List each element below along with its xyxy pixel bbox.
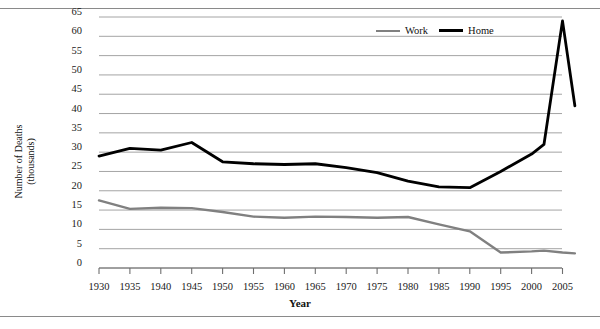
y-axis-tick-label: 25	[62, 161, 82, 171]
y-axis-tick-label: 40	[62, 104, 82, 114]
chart-page: 05101520253035404550556065 1930193519401…	[0, 0, 600, 329]
x-axis-tick-label: 2005	[543, 281, 583, 292]
y-axis-title: Number of Deaths (thousands)	[13, 102, 36, 222]
y-axis-tick-label: 45	[62, 84, 82, 94]
legend-item-home: Home	[439, 25, 494, 36]
legend-label-home: Home	[468, 25, 494, 36]
y-axis-tick-label: 0	[62, 258, 82, 268]
legend-swatch-home-icon	[439, 29, 463, 32]
line-chart-plot	[0, 0, 600, 329]
y-axis-tick-label: 35	[62, 123, 82, 133]
legend-item-work: Work	[376, 25, 428, 36]
y-axis-title-line-1: Number of Deaths	[13, 102, 25, 222]
chart-legend: Work Home	[376, 25, 494, 36]
y-axis-tick-label: 30	[62, 142, 82, 152]
y-axis-tick-label: 60	[62, 26, 82, 36]
y-axis-tick-label: 55	[62, 46, 82, 56]
y-axis-tick-label: 15	[62, 200, 82, 210]
x-axis-ticks	[99, 268, 563, 274]
y-axis-tick-label: 50	[62, 65, 82, 75]
y-axis-tick-label: 10	[62, 219, 82, 229]
series-line-home	[99, 21, 575, 188]
series-line-work	[99, 200, 575, 253]
y-axis-title-line-2: (thousands)	[24, 102, 36, 222]
y-axis-tick-label: 20	[62, 181, 82, 191]
legend-swatch-work-icon	[376, 30, 400, 32]
y-axis-tick-label: 65	[62, 7, 82, 17]
legend-label-work: Work	[405, 25, 428, 36]
x-axis-title: Year	[0, 297, 600, 309]
y-axis-tick-label: 5	[62, 239, 82, 249]
gridlines	[99, 17, 562, 268]
